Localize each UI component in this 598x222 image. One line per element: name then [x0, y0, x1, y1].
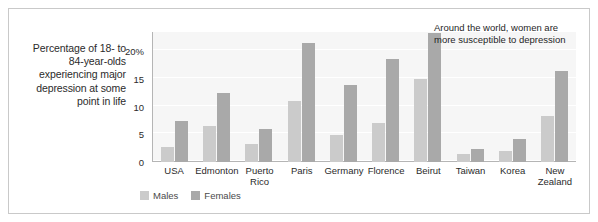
chart-legend: Males Females — [140, 190, 241, 201]
x-axis-label: New Zealand — [534, 165, 576, 187]
y-tick-label: 20% — [125, 46, 144, 57]
bar-females — [513, 139, 526, 162]
y-tick-label: 5 — [139, 129, 144, 140]
bar-females — [471, 149, 484, 162]
x-axis-label: Edmonton — [195, 165, 238, 187]
legend-item-females: Females — [191, 190, 240, 201]
bar-males — [541, 116, 554, 162]
y-tick-label: 15 — [133, 74, 144, 85]
bar-females — [217, 93, 230, 162]
legend-item-males: Males — [140, 190, 178, 201]
bar-males — [161, 147, 174, 162]
bar-group — [280, 32, 322, 162]
legend-swatch-females — [191, 191, 200, 200]
bar-females — [259, 129, 272, 162]
bar-group — [238, 32, 280, 162]
x-axis-label: Puerto Rico — [239, 165, 281, 187]
legend-label-males: Males — [153, 190, 178, 201]
chart-figure: Percentage of 18- to 84-year-olds experi… — [0, 0, 598, 222]
bar-females — [344, 85, 357, 162]
x-axis-label: Germany — [323, 165, 365, 187]
bar-males — [288, 101, 301, 162]
bar-females — [302, 43, 315, 162]
y-tick-label: 0 — [139, 157, 144, 168]
bar-males — [330, 135, 343, 162]
bar-group — [153, 32, 195, 162]
x-axis-label: Paris — [281, 165, 323, 187]
bar-females — [175, 121, 188, 162]
bar-females — [428, 33, 441, 162]
bar-group — [534, 32, 576, 162]
bar-group — [449, 32, 491, 162]
bar-males — [245, 144, 258, 162]
x-axis-labels: USAEdmontonPuerto RicoParisGermanyFloren… — [153, 165, 576, 187]
bar-group — [364, 32, 406, 162]
bar-females — [555, 71, 568, 162]
y-tick-label: 10 — [133, 101, 144, 112]
legend-label-females: Females — [204, 190, 240, 201]
bar-males — [457, 154, 470, 162]
bar-group — [322, 32, 364, 162]
bar-group — [195, 32, 237, 162]
legend-swatch-males — [140, 191, 149, 200]
x-axis-label: Korea — [492, 165, 534, 187]
y-axis-ticks: 05101520% — [108, 32, 148, 163]
x-axis-label: USA — [153, 165, 195, 187]
x-axis-label: Florence — [365, 165, 407, 187]
chart-annotation: Around the world, women are more suscept… — [434, 22, 574, 47]
bar-groups — [153, 32, 576, 162]
bar-group — [491, 32, 533, 162]
bar-males — [203, 126, 216, 162]
bar-group — [407, 32, 449, 162]
bar-males — [372, 123, 385, 162]
bar-females — [386, 59, 399, 162]
x-axis-label: Beirut — [407, 165, 449, 187]
bar-males — [414, 79, 427, 162]
x-axis-label: Taiwan — [449, 165, 491, 187]
bar-males — [499, 151, 512, 162]
